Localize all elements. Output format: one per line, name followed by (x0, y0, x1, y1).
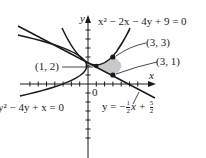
graph-figure: y x 0 x² − 2x − 4y + 9 = 0 y² − 4y + x =… (0, 0, 206, 158)
x-axis-label: x (149, 70, 154, 81)
label-parabola-left: y² − 4y + x = 0 (0, 102, 64, 113)
label-parabola-up: x² − 2x − 4y + 9 = 0 (98, 16, 187, 27)
point-3-1-dot (110, 72, 115, 77)
fraction-one-half: 12 (126, 100, 130, 115)
label-line-prefix: y = − (102, 100, 125, 112)
y-axis-label: y (80, 13, 85, 24)
label-line-mid: x + (131, 100, 149, 112)
curve-parabola-up (62, 28, 130, 65)
label-point-3-1: (3, 1) (156, 56, 180, 67)
leader-parabola-up (117, 30, 130, 50)
label-point-3-3: (3, 3) (146, 37, 170, 48)
point-1-2-dot (94, 64, 98, 68)
label-line: y = −12x + 52 (102, 100, 154, 115)
y-axis (85, 15, 91, 158)
label-point-1-2: (1, 2) (35, 61, 59, 72)
point-3-3-dot (110, 54, 115, 59)
fraction-five-halves: 52 (150, 100, 154, 115)
origin-label: 0 (92, 87, 98, 98)
